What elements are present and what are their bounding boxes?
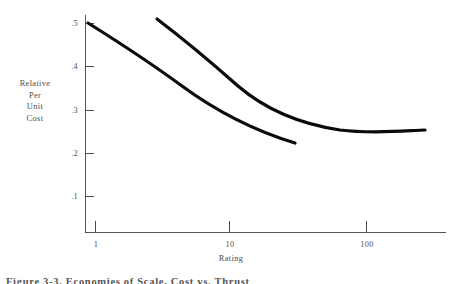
figure-caption: Figure 3-3. Economies of Scale, Cost vs.… [6, 276, 446, 284]
y-tick-label-0.2: .2 [56, 149, 78, 158]
figure-container: .5 .4 .3 .2 .1 1 10 100 Relative Per Uni… [0, 0, 449, 284]
x-axis-title: Rating [186, 254, 276, 263]
y-axis-title-line-4: Cost [4, 113, 66, 125]
data-curve-upper [157, 19, 425, 132]
data-curve-lower [88, 23, 295, 143]
x-tick-label-100: 100 [352, 240, 382, 249]
x-tick-label-10: 10 [215, 240, 245, 249]
y-tick-label-0.4: .4 [56, 62, 78, 71]
y-axis-title-line-1: Relative [4, 78, 66, 90]
y-axis-title: Relative Per Unit Cost [4, 78, 66, 124]
x-tick-label-1: 1 [81, 240, 111, 249]
y-axis-title-line-3: Unit [4, 101, 66, 113]
y-tick-label-0.5: .5 [56, 19, 78, 28]
y-tick-label-0.1: .1 [56, 192, 78, 201]
y-axis-title-line-2: Per [4, 90, 66, 102]
